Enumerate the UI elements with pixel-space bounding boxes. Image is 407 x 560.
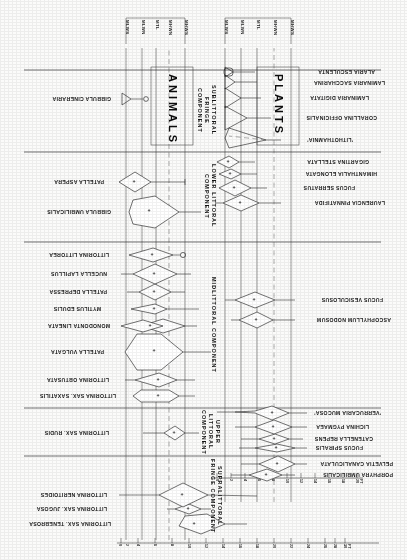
- scale-lower-tick-5: 10: [285, 479, 289, 491]
- kite-fucus-vesiculosus: +: [225, 292, 295, 308]
- scale-lower-tick-10: 0: [215, 479, 219, 491]
- tide-label-animals-mhwn: MHWN: [168, 20, 173, 42]
- svg-text:+: +: [180, 492, 183, 498]
- kite-littorina-obtusata: +: [125, 373, 195, 387]
- scale-upper-tick-1: 28: [333, 544, 337, 556]
- species-label-animal: LITTORINA SAX. RUDIS: [44, 430, 109, 436]
- species-label-plant: LAURENCIA PINNATIFIDA: [314, 200, 385, 206]
- scale-upper-tick-9: 12: [204, 544, 208, 556]
- kite-littorina-sax-rudis: +: [143, 426, 199, 440]
- kite-corallina-officinalis: [225, 106, 271, 130]
- species-label-animal: LITTORINA SAX. JUGOSA: [36, 506, 107, 512]
- svg-text:+: +: [132, 179, 135, 185]
- kite-mytilus-edulis: +: [131, 304, 199, 314]
- scale-upper-tick-2: 26: [323, 544, 327, 556]
- svg-text:+: +: [156, 377, 159, 383]
- kite-laminaria-digitata: [225, 88, 261, 108]
- scale-upper-tick-14: 2: [125, 544, 129, 556]
- svg-text:+: +: [152, 306, 155, 312]
- scale-lower-unit: FT: [359, 479, 363, 491]
- scale-upper-tick-11: 8: [170, 544, 174, 556]
- species-label-animal: LITTORINA LITTOREA: [49, 252, 109, 258]
- scale-upper-tick-13: 4: [136, 544, 140, 556]
- species-label-animal: LITTORINA OBTUSATA: [47, 377, 109, 383]
- kite-alaria-esculenta: [224, 67, 255, 77]
- tide-label-animals-mlws: MLWS: [125, 20, 130, 42]
- species-label-plant: LAMINARIA SACCHARINA: [314, 80, 385, 86]
- kite-littorina-neritoides: +: [119, 483, 257, 507]
- species-label-animal: PATELLA DEPRESSA: [49, 289, 107, 295]
- species-label-animal: GIBBULA UMBILICALIS: [47, 209, 111, 215]
- scale-upper-tick-6: 18: [255, 544, 259, 556]
- svg-text:+: +: [186, 506, 189, 512]
- kite-gigartina-stellata: +: [217, 156, 255, 168]
- kite-patella-aspera: +: [119, 172, 185, 192]
- scale-lower-tick-0: 20: [355, 479, 359, 491]
- species-label-plant: HIMANTHALIA ELONGATA: [305, 171, 377, 177]
- scale-upper-tick-15: 0: [118, 544, 122, 556]
- species-label-plant: FUCUS SERRATUS: [303, 185, 355, 191]
- scale-upper-tick-0: 30: [343, 544, 347, 556]
- kite-fucus-serratus: +: [219, 180, 267, 196]
- svg-text:+: +: [152, 289, 155, 295]
- svg-text:+: +: [254, 317, 257, 323]
- kite-nucella-lapillus: +: [121, 264, 191, 284]
- svg-text:+: +: [270, 410, 273, 416]
- species-label-plant: PELVETIA CANALICULATA: [320, 461, 393, 467]
- species-label-plant: FUCUS SPIRALIS: [316, 445, 363, 451]
- kite-patella-vulgata: +: [125, 334, 211, 370]
- species-label-plant: CORALLINA OFFICINALIS: [306, 115, 377, 121]
- species-label-animal: MYTILUS EDULIS: [54, 306, 101, 312]
- tide-label-plants-mlws: MLWS: [224, 20, 229, 42]
- kite-lichina-pygmaea: +: [235, 420, 307, 434]
- svg-text:+: +: [172, 430, 175, 436]
- scale-lower-tick-7: 6: [257, 479, 261, 491]
- svg-text:+: +: [232, 185, 235, 191]
- tide-label-animals-mtl: MTL: [155, 20, 160, 42]
- scale-upper-tick-10: 10: [187, 544, 191, 556]
- species-label-plant: 'VERRUCARIA MUCOSA': [314, 410, 381, 416]
- species-label-animal: LITTORINA SAX. TENEBROSA: [29, 521, 111, 527]
- tide-label-plants-mlwn: MLWN: [240, 20, 245, 42]
- species-label-animal: NUCELLA LAPILLUS: [51, 271, 107, 277]
- kite-littorina-littorea: +: [129, 248, 186, 262]
- scale-upper-unit: FT: [347, 544, 351, 556]
- species-label-plant: LAMINARIA DIGITATA: [310, 95, 369, 101]
- scale-upper-tick-3: 24: [306, 544, 310, 556]
- scale-upper-ruler: [117, 538, 379, 543]
- kite-gibbula-umbilicalis: +: [129, 196, 201, 228]
- kite-fucus-spiralis: +: [239, 444, 307, 452]
- svg-text:+: +: [147, 208, 150, 214]
- svg-text:+: +: [152, 348, 155, 354]
- species-label-animal: PATELLA ASPERA: [54, 179, 104, 185]
- svg-text:+: +: [252, 297, 255, 303]
- svg-text:+: +: [274, 445, 277, 451]
- kite-ascophyllum-nodosum: +: [231, 312, 295, 328]
- category-label-plants: PLANTS: [273, 74, 285, 136]
- scale-upper-tick-12: 6: [153, 544, 157, 556]
- scale-lower-tick-2: 16: [327, 479, 331, 491]
- species-label-plant: PORPHYRA UMBILICALIS: [323, 472, 393, 478]
- species-label-animal: GIBBULA CINERARIA: [52, 96, 111, 102]
- svg-text:+: +: [264, 472, 267, 478]
- scale-upper-tick-8: 14: [221, 544, 225, 556]
- svg-text:+: +: [148, 323, 151, 329]
- kite-catenella-repens: +: [241, 434, 303, 444]
- scale-upper-tick-5: 20: [272, 544, 276, 556]
- svg-text:+: +: [226, 159, 229, 165]
- scale-lower-tick-3: 14: [313, 479, 317, 491]
- svg-text:+: +: [271, 424, 274, 430]
- species-label-plant: ALARIA ESCULENTA: [318, 69, 375, 75]
- tide-label-plants-mhwn: MHWN: [273, 20, 278, 42]
- species-label-plant: GIGARTINA STELLATA: [307, 159, 369, 165]
- figure-plate: + + + +: [0, 0, 407, 560]
- species-label-plant: 'LITHOTHAMNIA': [307, 137, 353, 143]
- svg-text:+: +: [152, 271, 155, 277]
- tide-label-animals-mlwn: MLWN: [141, 20, 146, 42]
- zone-label-upper-littoral: UPPER LITTORAL COMPONENT: [199, 410, 221, 454]
- zone-label-supralittoral-fringe: SUPRALITTORAL FRINGE COMPONENT: [201, 458, 223, 534]
- scale-lower-tick-6: 8: [271, 479, 275, 491]
- zone-label-lower-littoral: LOWER LITTORAL COMPONENT: [195, 158, 217, 234]
- scale-upper-tick-4: 22: [289, 544, 293, 556]
- svg-text:+: +: [192, 521, 195, 527]
